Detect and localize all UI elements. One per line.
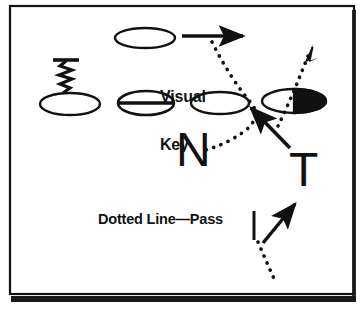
legend-dotted-line-pass-label: Dotted Line—Pass (98, 212, 223, 227)
visual-key-line1: Visual (160, 89, 206, 105)
route-letter-t: T (289, 146, 318, 194)
frame-right-shadow (352, 10, 356, 300)
player-left-motion (40, 93, 100, 115)
frame-bottom-shadow (11, 296, 356, 302)
play-diagram: Visual Key Dotted Line—Pass N T (0, 0, 363, 309)
route-letter-n: N (176, 126, 211, 174)
player-top (115, 28, 175, 48)
